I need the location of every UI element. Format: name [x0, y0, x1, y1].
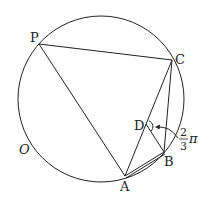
segment-db [146, 124, 164, 152]
arrowhead-icon [155, 125, 160, 130]
segment-pc [39, 44, 172, 60]
geometry-diagram: P C A B D O 2 3 π [0, 0, 210, 207]
label-c: C [175, 52, 185, 67]
segment-cb [164, 60, 172, 152]
segment-ab [125, 152, 164, 176]
angle-pi: π [188, 131, 198, 146]
label-b: B [164, 154, 174, 169]
label-d: D [134, 118, 144, 133]
label-o: O [19, 142, 30, 157]
label-p: P [30, 30, 39, 45]
angle-denominator: 3 [180, 140, 187, 153]
segment-ab-double [126, 154, 165, 178]
segment-pa [39, 44, 125, 176]
angle-numerator: 2 [180, 126, 187, 139]
label-a: A [119, 179, 130, 194]
